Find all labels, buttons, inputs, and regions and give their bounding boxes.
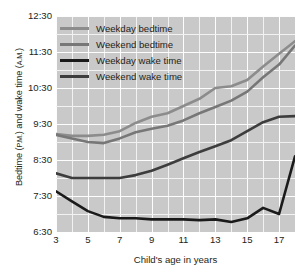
legend-swatch-icon bbox=[60, 43, 89, 46]
legend-item-2[interactable]: Weekend bedtime bbox=[60, 36, 260, 52]
y-axis-tick-label: 10:30 bbox=[14, 83, 52, 93]
legend-swatch-icon bbox=[60, 59, 89, 62]
legend-item-label: Weekend bedtime bbox=[96, 39, 173, 50]
legend-item-4[interactable]: Weekend wake time bbox=[60, 68, 260, 84]
x-axis-tick-labels: 357911131517 bbox=[56, 234, 295, 250]
x-axis-tick-label: 7 bbox=[110, 234, 130, 245]
sleep-times-line-chart: Bedtime (P.M.) and wake time (A.M.) 6:30… bbox=[0, 0, 302, 275]
legend-item-label: Weekend wake time bbox=[96, 71, 182, 82]
x-axis-tick-label: 3 bbox=[46, 234, 66, 245]
y-axis-tick-label: 11:30 bbox=[14, 47, 52, 57]
chart-legend: Weekday bedtimeWeekend bedtimeWeekday wa… bbox=[60, 20, 260, 84]
x-axis-tick-label: 15 bbox=[237, 234, 257, 245]
legend-item-label: Weekday bedtime bbox=[96, 23, 173, 34]
legend-item-label: Weekday wake time bbox=[96, 55, 182, 66]
x-axis-title: Child's age in years bbox=[56, 254, 295, 265]
series-line-3 bbox=[56, 156, 295, 222]
legend-swatch-icon bbox=[60, 27, 89, 30]
legend-swatch-icon bbox=[60, 75, 89, 78]
x-axis-tick-label: 5 bbox=[78, 234, 98, 245]
series-line-4 bbox=[56, 116, 295, 178]
y-axis-tick-label: 8:30 bbox=[14, 155, 52, 165]
x-axis-tick-label: 11 bbox=[173, 234, 193, 245]
y-axis-tick-label: 12:30 bbox=[14, 11, 52, 21]
y-axis-tick-label: 7:30 bbox=[14, 191, 52, 201]
legend-item-3[interactable]: Weekday wake time bbox=[60, 52, 260, 68]
legend-item-1[interactable]: Weekday bedtime bbox=[60, 20, 260, 36]
x-axis-tick-label: 9 bbox=[142, 234, 162, 245]
y-axis-tick-label: 9:30 bbox=[14, 119, 52, 129]
x-axis-tick-label: 13 bbox=[205, 234, 225, 245]
x-axis-tick-label: 17 bbox=[269, 234, 289, 245]
